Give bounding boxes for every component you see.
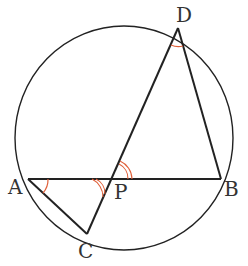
segment-db [178, 28, 221, 179]
angle-mark-p-left-outer [92, 179, 103, 197]
label-c: C [78, 239, 93, 263]
circle [15, 26, 233, 250]
label-d: D [176, 3, 192, 27]
angle-mark-a [43, 179, 48, 193]
label-p: P [114, 180, 127, 204]
label-a: A [7, 175, 23, 199]
geometry-diagram: A B C D P [0, 0, 248, 266]
segment-ac [28, 179, 87, 234]
angle-mark-d [171, 45, 183, 47]
diagram-canvas: A B C D P [0, 0, 248, 266]
segment-cd [87, 28, 178, 234]
label-b: B [224, 177, 239, 201]
